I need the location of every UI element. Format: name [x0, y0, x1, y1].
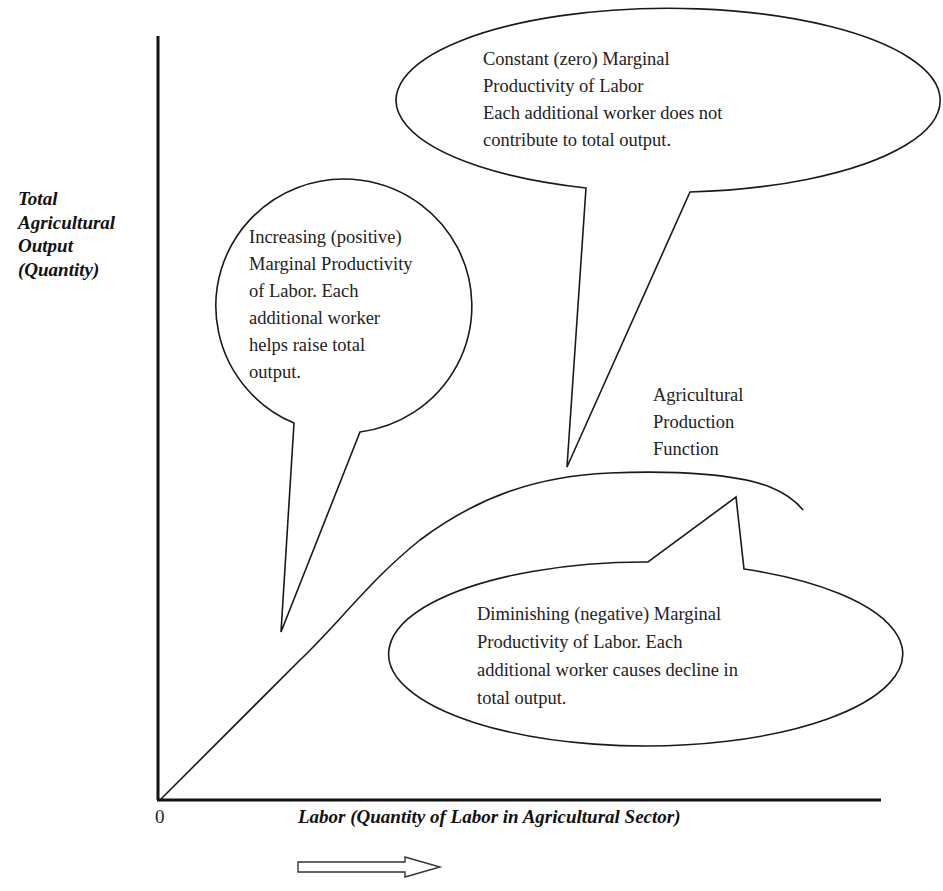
callout-line: Marginal Productivity [249, 251, 413, 278]
callout-line: Diminishing (negative) Marginal [477, 600, 738, 628]
callout-line: Each additional worker does not [483, 100, 722, 127]
callout-line: Increasing (positive) [249, 224, 413, 251]
origin-label: 0 [155, 806, 165, 828]
diminishing-callout-text: Diminishing (negative) Marginal Producti… [477, 600, 738, 712]
callout-line: total output. [477, 684, 738, 712]
curve-label-line: Function [653, 436, 743, 463]
constant-callout-text: Constant (zero) Marginal Productivity of… [483, 46, 722, 154]
callout-line: output. [249, 359, 413, 386]
x-axis-label: Labor (Quantity of Labor in Agricultural… [298, 806, 681, 828]
right-arrow-icon [298, 857, 440, 877]
callout-line: contribute to total output. [483, 127, 722, 154]
callout-line: additional worker causes decline in [477, 656, 738, 684]
y-axis-label-line: (Quantity) [18, 258, 115, 282]
callout-line: helps raise total [249, 332, 413, 359]
callout-line: of Labor. Each [249, 278, 413, 305]
callout-line: Productivity of Labor. Each [477, 628, 738, 656]
increasing-callout-text: Increasing (positive) Marginal Productiv… [249, 224, 413, 386]
y-axis-label-line: Output [18, 234, 115, 258]
curve-label-line: Agricultural [653, 382, 743, 409]
curve-label-line: Production [653, 409, 743, 436]
callout-line: additional worker [249, 305, 413, 332]
production-function-label: Agricultural Production Function [653, 382, 743, 463]
diagram-canvas [0, 0, 943, 891]
callout-line: Productivity of Labor [483, 73, 722, 100]
y-axis-label-line: Total [18, 187, 115, 211]
callout-line: Constant (zero) Marginal [483, 46, 722, 73]
y-axis-label: Total Agricultural Output (Quantity) [18, 187, 115, 281]
y-axis-label-line: Agricultural [18, 211, 115, 235]
